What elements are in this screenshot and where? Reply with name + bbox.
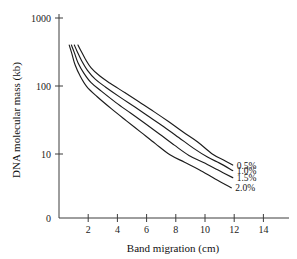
x-tick-label: 8 xyxy=(173,224,178,235)
y-tick-label: 10 xyxy=(41,149,51,160)
y-axis-title: DNA molecular mass (kb) xyxy=(10,62,23,178)
series-label-1-5pct: 1.5% xyxy=(237,173,257,183)
x-tick-label: 4 xyxy=(115,224,120,235)
x-tick-label: 6 xyxy=(144,224,149,235)
x-tick-label: 14 xyxy=(258,224,268,235)
dna-migration-chart: 0101001000 2468101214 0.5%1.0%1.5%2.0% B… xyxy=(0,0,297,259)
x-axis-title: Band migration (cm) xyxy=(127,242,220,255)
y-axis-ticks: 0101001000 xyxy=(31,13,63,224)
curve-0-5pct xyxy=(78,45,233,165)
x-tick-label: 12 xyxy=(229,224,239,235)
x-tick-label: 2 xyxy=(86,224,91,235)
y-tick-label: 0 xyxy=(46,213,51,224)
chart-figure: 0101001000 2468101214 0.5%1.0%1.5%2.0% B… xyxy=(0,0,297,259)
curve-2-0pct xyxy=(69,45,231,188)
x-axis-ticks: 2468101214 xyxy=(86,214,269,235)
series-labels: 0.5%1.0%1.5%2.0% xyxy=(235,161,256,194)
y-tick-label: 100 xyxy=(36,81,51,92)
series-label-2-0pct: 2.0% xyxy=(235,183,255,193)
x-tick-label: 10 xyxy=(200,224,210,235)
data-curves xyxy=(69,45,233,188)
y-tick-label: 1000 xyxy=(31,13,51,24)
